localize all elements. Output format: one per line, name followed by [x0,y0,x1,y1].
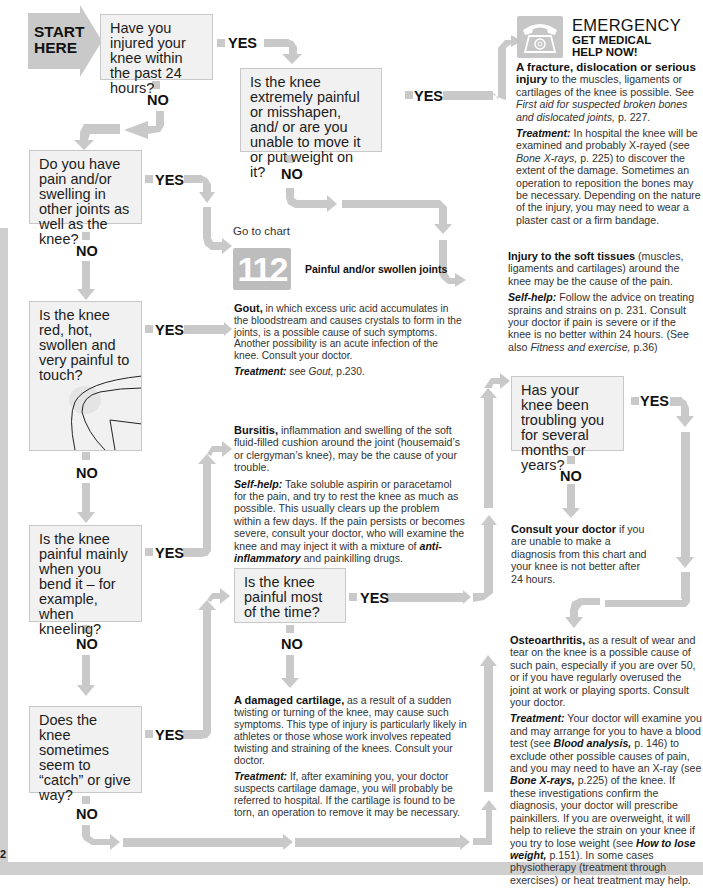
yes-label: YES [155,322,184,338]
question-other-joints: Do you have pain and/or swelling in othe… [29,150,142,224]
diagnosis-title: A damaged cartilage, [234,694,344,706]
cross-reference-link[interactable]: Fitness and exercise, [530,341,630,353]
question-painful-bending: Is the knee painful mainly when you bend… [29,525,142,622]
cross-reference-link[interactable]: Blood analysis, [554,737,632,749]
yes-label: YES [155,545,184,561]
question-red-hot-swollen: Is the knee red, hot, swollen and very p… [29,301,142,451]
question-text: Is the knee extremely painful or misshap… [250,74,360,180]
yes-label: YES [228,35,257,51]
start-label-line1: START [34,24,85,40]
emergency-subtitle-line2: HELP NOW! [572,46,651,58]
no-label: NO [147,92,169,108]
no-label: NO [76,806,98,822]
goto-chart-label: Go to chart [233,225,290,237]
knee-illustration-icon [30,362,142,451]
emergency-description: A fracture, dislocation or serious injur… [516,61,701,230]
question-text: Is the knee painful mainly when you bend… [39,531,128,637]
gout-description: Gout, in which excess uric acid accumula… [234,303,464,382]
yes-label: YES [155,727,184,743]
bursitis-description: Bursitis, inflammation and swelling of t… [234,424,466,568]
diagnosis-title: Osteoarthritis, [510,634,585,646]
question-catch-give-way: Does the knee sometimes seem to “catch” … [29,706,142,793]
diagnosis-text: in which excess uric acid accumulates in… [234,303,462,361]
treatment-label: Treatment: [510,712,565,724]
yes-label: YES [360,590,389,606]
cross-reference-link[interactable]: Gout, [309,366,334,377]
chart-112-title[interactable]: Painful and/or swollen joints [305,263,447,275]
page-ref: p. 227. [615,111,650,123]
soft-tissue-description: Injury to the soft tissues (muscles, lig… [508,250,701,357]
osteoarthritis-description: Osteoarthritis, as a result of wear and … [510,634,702,890]
cross-reference-link[interactable]: Bone X-rays, [510,774,575,786]
start-here-label: START HERE [34,24,85,56]
selfhelp-label: Self-help: [234,478,282,490]
diagnosis-title: Bursitis, [234,424,278,436]
no-label: NO [76,465,98,481]
diagnosis-title: Consult your doctor [511,523,616,535]
diagnosis-title: Injury to the soft tissues [508,250,635,262]
telephone-icon [517,16,563,58]
question-troubling-months: Has your knee been troubling you for sev… [511,376,624,451]
question-text: Is the knee painful most of the time? [244,574,322,620]
cartilage-description: A damaged cartilage, as a result of a su… [234,694,470,823]
no-label: NO [281,636,303,652]
treatment-text: p.230. [333,366,364,377]
yes-label: YES [640,393,669,409]
no-label: NO [76,243,98,259]
question-injured-24h: Have you injured your knee within the pa… [100,14,213,80]
yes-label: YES [155,172,184,188]
consult-doctor-note: Consult your doctor if you are unable to… [511,523,651,589]
question-painful-most-time: Is the knee painful most of the time? [234,568,346,623]
chart-112-link[interactable]: 112 [233,248,291,290]
treatment-text: see [286,366,308,377]
cross-reference-link[interactable]: Bone X-rays, [516,152,577,164]
selfhelp-label: Self-help: [508,291,556,303]
selfhelp-text: p.36) [631,341,658,353]
diagnosis-title: Gout, [234,302,263,314]
no-label: NO [560,468,582,484]
treatment-label: Treatment: [234,366,286,377]
emergency-subtitle: GET MEDICAL HELP NOW! [572,34,651,58]
start-label-line2: HERE [34,40,85,56]
no-label: NO [76,636,98,652]
emergency-subtitle-line1: GET MEDICAL [572,34,651,46]
treatment-label: Treatment: [516,127,571,139]
no-label: NO [281,166,303,182]
question-extremely-painful: Is the knee extremely painful or misshap… [240,68,382,152]
question-text: Does the knee sometimes seem to “catch” … [39,712,131,803]
yes-label: YES [414,88,443,104]
treatment-label: Treatment: [234,771,287,782]
selfhelp-text: and painkilling drugs. [301,552,403,564]
cross-reference-link[interactable]: First aid for suspected broken bones and… [516,98,687,122]
emergency-title: EMERGENCY [572,16,681,35]
